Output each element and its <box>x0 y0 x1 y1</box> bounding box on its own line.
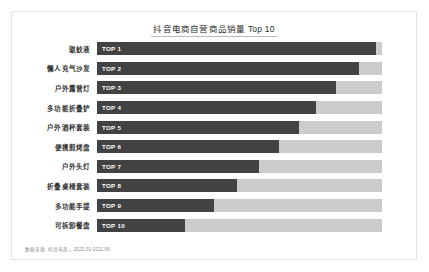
bar-row: 户外头灯 TOP 7 <box>12 157 416 177</box>
bar-row: 驱蚊液 TOP 1 <box>12 39 416 59</box>
category-label: 折叠桌椅套装 <box>12 181 97 191</box>
bar-row: 户外露营灯 TOP 3 <box>12 78 416 98</box>
rank-label: TOP 1 <box>102 42 121 55</box>
rank-label: TOP 5 <box>102 121 121 134</box>
bar-row: 可拆卸餐盘 TOP 10 <box>12 215 416 235</box>
bar-track: TOP 10 <box>97 219 382 232</box>
bar-fill <box>97 140 279 153</box>
source-note: 数据来源: 抖音电商，2022.01-2022.06 <box>25 246 110 252</box>
bar-fill <box>97 81 336 94</box>
category-label: 户外头灯 <box>12 161 97 171</box>
bar-track: TOP 7 <box>97 160 382 173</box>
bar-track: TOP 1 <box>97 42 382 55</box>
bar-chart: 驱蚊液 TOP 1 懒人充气沙发 TOP 2 户外露营灯 TOP 3 多功能折叠… <box>12 39 416 235</box>
rank-label: TOP 4 <box>102 101 121 114</box>
bar-track: TOP 9 <box>97 199 382 212</box>
rank-label: TOP 10 <box>102 219 125 232</box>
category-label: 户外露营灯 <box>12 83 97 93</box>
rank-label: TOP 9 <box>102 199 121 212</box>
bar-row: 户外酒杯套装 TOP 5 <box>12 117 416 137</box>
bar-fill <box>97 62 359 75</box>
category-label: 多功能折叠铲 <box>12 103 97 113</box>
rank-label: TOP 7 <box>102 160 121 173</box>
category-label: 多功能手提 <box>12 201 97 211</box>
rank-label: TOP 6 <box>102 140 121 153</box>
bar-track: TOP 8 <box>97 179 382 192</box>
bar-row: 折叠桌椅套装 TOP 8 <box>12 176 416 196</box>
bar-row: 多功能折叠铲 TOP 4 <box>12 98 416 118</box>
bar-track: TOP 5 <box>97 121 382 134</box>
bar-fill <box>97 121 299 134</box>
bar-track: TOP 6 <box>97 140 382 153</box>
bar-track: TOP 4 <box>97 101 382 114</box>
bar-track: TOP 3 <box>97 81 382 94</box>
category-label: 便携煎烤盘 <box>12 142 97 152</box>
chart-card: 抖音电商自营商品销量 Top 10 驱蚊液 TOP 1 懒人充气沙发 TOP 2… <box>11 11 417 260</box>
rank-label: TOP 2 <box>102 62 121 75</box>
category-label: 懒人充气沙发 <box>12 63 97 73</box>
rank-label: TOP 3 <box>102 81 121 94</box>
bar-track: TOP 2 <box>97 62 382 75</box>
bar-row: 多功能手提 TOP 9 <box>12 196 416 216</box>
page-title: 抖音电商自营商品销量 Top 10 <box>12 22 416 37</box>
bar-fill <box>97 101 316 114</box>
bar-row: 懒人充气沙发 TOP 2 <box>12 59 416 79</box>
chart-title-text: 抖音电商自营商品销量 Top 10 <box>151 22 276 37</box>
bar-row: 便携煎烤盘 TOP 6 <box>12 137 416 157</box>
rank-label: TOP 8 <box>102 179 121 192</box>
category-label: 驱蚊液 <box>12 44 97 54</box>
bar-fill <box>97 160 259 173</box>
category-label: 户外酒杯套装 <box>12 122 97 132</box>
bar-fill <box>97 42 376 55</box>
category-label: 可拆卸餐盘 <box>12 220 97 230</box>
